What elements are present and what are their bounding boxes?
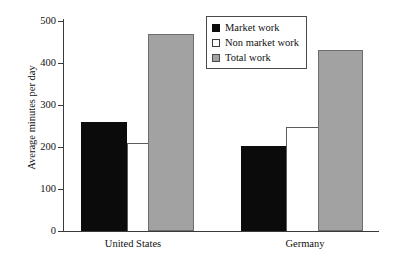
x-axis-label-united-states: United States bbox=[83, 238, 183, 249]
y-tick-300 bbox=[58, 105, 63, 106]
y-tick-0 bbox=[58, 231, 63, 232]
bar-germany-total-work bbox=[318, 50, 363, 231]
legend-swatch-total-work-icon bbox=[212, 54, 220, 62]
legend-swatch-market-work-icon bbox=[212, 24, 220, 32]
bar-germany-market-work bbox=[241, 146, 286, 231]
y-axis-line bbox=[63, 19, 64, 232]
legend-label-non-market-work: Non market work bbox=[225, 37, 299, 48]
y-tick-label-100: 100 bbox=[40, 184, 56, 195]
y-tick-label-400: 400 bbox=[40, 58, 56, 69]
legend-item-market-work: Market work bbox=[212, 20, 302, 35]
legend-swatch-non-market-work-icon bbox=[212, 39, 220, 47]
legend-item-non-market-work: Non market work bbox=[212, 35, 302, 50]
chart-legend: Market work Non market work Total work bbox=[206, 16, 307, 69]
bar-chart: Average minutes per day 500 400 300 200 … bbox=[0, 0, 393, 275]
legend-label-market-work: Market work bbox=[225, 22, 280, 33]
y-tick-400 bbox=[58, 63, 63, 64]
y-tick-500 bbox=[58, 21, 63, 22]
y-tick-label-500: 500 bbox=[40, 16, 56, 27]
y-tick-100 bbox=[58, 189, 63, 190]
y-tick-label-0: 0 bbox=[51, 226, 56, 237]
x-axis-line bbox=[63, 231, 379, 232]
legend-item-total-work: Total work bbox=[212, 50, 302, 65]
y-axis-title: Average minutes per day bbox=[26, 33, 37, 203]
bar-united-states-total-work bbox=[148, 34, 194, 231]
bar-united-states-market-work bbox=[81, 122, 127, 231]
x-axis-label-germany: Germany bbox=[262, 238, 348, 249]
legend-label-total-work: Total work bbox=[225, 52, 271, 63]
y-tick-label-300: 300 bbox=[40, 100, 56, 111]
y-tick-label-200: 200 bbox=[40, 142, 56, 153]
y-tick-200 bbox=[58, 147, 63, 148]
